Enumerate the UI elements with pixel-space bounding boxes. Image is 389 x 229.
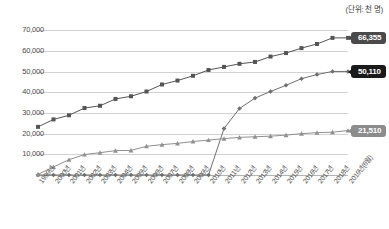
callout-value: 21,510 (358, 126, 381, 135)
y-tick-text: 10,000 (22, 149, 44, 158)
callout-upper: 66,355 (351, 32, 386, 45)
y-tick-text: 70,000 (22, 25, 44, 34)
data-point-marker (284, 83, 289, 88)
data-point-marker (284, 51, 288, 55)
data-point-marker (191, 74, 195, 78)
callout-lower: 21,510 (351, 125, 386, 138)
data-point-marker (269, 55, 273, 59)
callout-middle: 50,110 (351, 65, 386, 78)
callout-value: 66,355 (358, 33, 381, 42)
series-line (38, 38, 348, 127)
series-series-middle (36, 69, 351, 177)
data-point-marker (253, 60, 257, 64)
data-point-marker (98, 104, 102, 108)
line-chart: (단위: 천 명) 10,00020,00030,00040,00050,000… (0, 0, 389, 229)
series-layer (38, 20, 348, 175)
data-point-marker (83, 106, 87, 110)
data-point-marker (52, 117, 56, 121)
data-point-marker (331, 36, 335, 40)
y-tick-text: 20,000 (22, 129, 44, 138)
data-point-marker (160, 82, 164, 86)
data-point-marker (145, 90, 149, 94)
data-point-marker (129, 94, 133, 98)
data-point-marker (67, 113, 71, 117)
data-point-marker (238, 62, 242, 66)
unit-caption: (단위: 천 명) (346, 3, 383, 14)
data-point-marker (114, 97, 118, 101)
data-point-marker (315, 72, 320, 77)
y-tick-text: 40,000 (22, 87, 44, 96)
series-series-upper (36, 36, 350, 129)
data-point-marker (222, 65, 226, 69)
y-tick-text: 50,000 (22, 67, 44, 76)
callout-value: 50,110 (358, 67, 381, 76)
data-point-marker (268, 89, 273, 94)
data-point-marker (207, 68, 211, 72)
data-point-marker (315, 42, 319, 46)
data-point-marker (330, 69, 335, 74)
series-line (38, 71, 348, 175)
data-point-marker (176, 79, 180, 83)
data-point-marker (300, 46, 304, 50)
y-tick-text: 30,000 (22, 108, 44, 117)
plot-area (38, 20, 348, 175)
data-point-marker (299, 76, 304, 81)
y-tick-text: 60,000 (22, 46, 44, 55)
